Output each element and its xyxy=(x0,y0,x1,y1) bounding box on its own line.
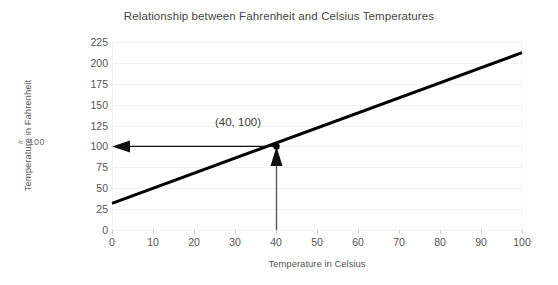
horizontal-arrow-head xyxy=(112,140,130,152)
data-point-marker xyxy=(273,143,279,149)
data-series-line xyxy=(112,53,522,204)
chart-overlay xyxy=(0,0,558,285)
data-point-annotation: (40, 100) xyxy=(215,116,261,128)
chart-figure: Relationship between Fahrenheit and Cels… xyxy=(0,0,558,285)
